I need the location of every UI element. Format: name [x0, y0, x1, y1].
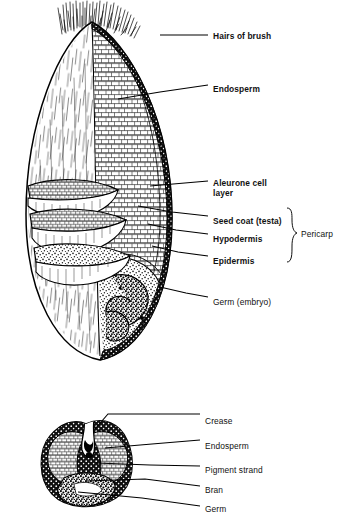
leader-germ-embryo: [160, 287, 208, 297]
label-bran: Bran: [205, 485, 223, 495]
label-seed-coat-testa: Seed coat (testa): [213, 216, 282, 226]
label-aleurone-cell-layer: Aleurone cell layer: [213, 178, 267, 199]
label-pigment-strand: Pigment strand: [205, 465, 263, 475]
label-pericarp: Pericarp: [301, 229, 333, 239]
label-hypodermis: Hypodermis: [213, 234, 262, 244]
label-crease: Crease: [205, 416, 233, 426]
label-hairs-of-brush: Hairs of brush: [213, 31, 271, 41]
cross-section: [41, 414, 200, 507]
label-endosperm-top: Endosperm: [213, 84, 260, 94]
label-germ-embryo: Germ (embryo): [213, 297, 271, 307]
pigment-strand-spot: [86, 452, 92, 458]
label-endosperm-bottom: Endosperm: [205, 441, 249, 451]
wheat-kernel-diagram: [0, 0, 357, 525]
pericarp-brace: [287, 208, 297, 262]
label-germ: Germ: [205, 504, 226, 514]
peeled-layer-flaps: [28, 180, 130, 285]
label-epidermis: Epidermis: [213, 256, 254, 266]
